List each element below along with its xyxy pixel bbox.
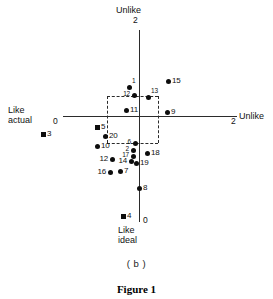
point-marker <box>95 125 100 130</box>
point-label: 4 <box>127 212 131 220</box>
point-marker <box>165 110 170 115</box>
point-marker <box>95 144 100 149</box>
point-marker <box>133 141 138 146</box>
point-marker <box>166 79 171 84</box>
point-label: 20 <box>109 132 118 140</box>
point-label: 8 <box>143 184 147 192</box>
point-marker <box>127 85 132 90</box>
axis-label-left-line2: actual <box>8 115 32 125</box>
scatter-plot: 1 12 13 15 11 9 3 5 <box>0 0 273 250</box>
axis-tick-bottom: 0 <box>143 216 148 225</box>
point-marker <box>131 154 136 159</box>
point-marker <box>108 170 113 175</box>
figure-container: 1 12 13 15 11 9 3 5 <box>0 0 273 299</box>
point-label: 10 <box>101 142 110 150</box>
point-label: 5 <box>101 123 105 131</box>
reference-box-right <box>158 96 159 143</box>
point-label: 13 <box>151 88 158 95</box>
point-marker <box>134 161 139 166</box>
axis-tick-right: 2 <box>231 117 236 126</box>
point-label: 14 <box>119 157 128 165</box>
point-marker <box>132 93 137 98</box>
point-marker <box>137 186 142 191</box>
y-axis-line <box>139 30 140 222</box>
axis-label-left: Like actual <box>8 105 32 125</box>
point-label: 1 <box>132 78 135 85</box>
point-marker <box>41 132 46 137</box>
point-label: 15 <box>172 77 181 85</box>
point-marker <box>131 148 136 153</box>
point-label: 12 <box>100 155 109 163</box>
point-label: 11 <box>130 106 138 114</box>
point-marker <box>124 108 129 113</box>
point-marker <box>118 169 123 174</box>
axis-label-bottom: Like ideal <box>118 225 137 245</box>
point-label: 16 <box>98 168 107 176</box>
point-label: 12 <box>123 91 130 98</box>
point-marker <box>121 214 126 219</box>
axis-tick-top: 2 <box>133 16 138 25</box>
point-marker <box>103 134 108 139</box>
point-label: 9 <box>171 108 175 116</box>
point-label: 19 <box>140 159 149 167</box>
x-axis-line <box>63 116 237 117</box>
point-marker <box>129 159 134 164</box>
point-label: 7 <box>124 167 128 175</box>
point-marker <box>146 95 151 100</box>
axis-tick-left: 0 <box>53 117 58 126</box>
point-marker <box>145 151 150 156</box>
point-label: 18 <box>151 149 160 157</box>
axis-label-top: Unlike <box>116 5 141 15</box>
point-label: 3 <box>47 130 51 138</box>
figure-caption: Figure 1 <box>0 283 273 295</box>
axis-label-bottom-line1: Like <box>118 225 135 235</box>
axis-label-left-line1: Like <box>8 105 25 115</box>
sub-figure-caption: ( b ) <box>0 258 273 269</box>
axis-label-bottom-line2: ideal <box>118 235 137 245</box>
axis-label-right: Unlike <box>239 111 264 121</box>
point-marker <box>110 157 115 162</box>
